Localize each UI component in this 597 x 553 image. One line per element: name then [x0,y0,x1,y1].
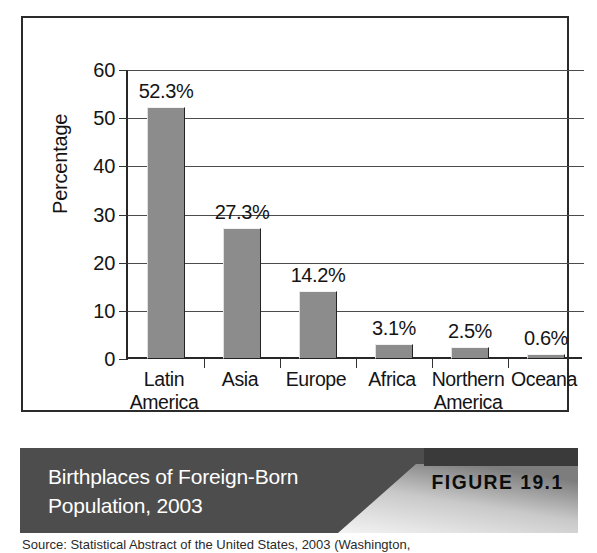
x-axis-category-label: Oceana [498,368,590,391]
x-axis-tick [280,359,281,368]
figure-frame: Percentage 0102030405060 52.3%27.3%14.2%… [21,16,569,412]
bar[interactable] [299,291,337,359]
x-axis-labels: Latin AmericaAsiaEuropeAfricaNorthern Am… [126,368,582,428]
chart-plot-area: 0102030405060 52.3%27.3%14.2%3.1%2.5%0.6… [126,70,582,359]
x-axis-tick [508,359,509,368]
bar-slot: 2.5% [432,70,508,359]
y-axis-tick [119,118,128,119]
bar-slot: 0.6% [508,70,584,359]
y-axis-title: Percentage [49,114,72,214]
bar-value-label: 2.5% [448,320,492,343]
bar-value-label: 3.1% [372,317,416,340]
bar-slot: 3.1% [356,70,432,359]
bar[interactable] [527,354,565,359]
figure-number-tab [424,448,578,466]
y-axis-tick [119,70,128,71]
y-axis-tick-label: 40 [93,155,115,178]
y-axis-tick [119,263,128,264]
y-axis-tick-label: 50 [93,107,115,130]
figure-caption-banner: Birthplaces of Foreign-Born Population, … [20,448,578,533]
bar-value-label: 14.2% [291,264,346,287]
y-axis-tick-label: 10 [93,299,115,322]
y-axis-tick-label: 0 [104,348,115,371]
figure-number-label: FIGURE 19.1 [424,470,571,494]
bar-slot: 27.3% [204,70,280,359]
bar-slot: 52.3% [128,70,204,359]
y-axis-tick [119,311,128,312]
figure-source-note: Source: Statistical Abstract of the Unit… [22,537,578,553]
bar-value-label: 27.3% [215,201,270,224]
figure-caption-text: Birthplaces of Foreign-Born Population, … [48,462,388,520]
bar-value-label: 0.6% [524,327,568,350]
bar[interactable] [375,344,413,359]
x-axis-tick [204,359,205,368]
y-axis-tick [119,359,128,360]
x-axis-tick [432,359,433,368]
bars-layer: 52.3%27.3%14.2%3.1%2.5%0.6% [128,70,584,359]
bar[interactable] [147,107,185,359]
y-axis-tick-label: 30 [93,203,115,226]
bar-slot: 14.2% [280,70,356,359]
y-axis-tick-label: 20 [93,251,115,274]
bar[interactable] [451,347,489,359]
x-axis-tick [356,359,357,368]
bar[interactable] [223,228,261,359]
y-axis-tick [119,166,128,167]
bar-value-label: 52.3% [139,80,194,103]
y-axis-tick [119,215,128,216]
y-axis-tick-label: 60 [93,59,115,82]
